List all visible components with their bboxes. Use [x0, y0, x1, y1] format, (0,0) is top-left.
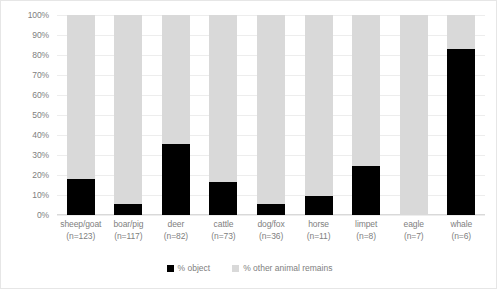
y-axis-tick-label: 10% — [32, 190, 49, 200]
x-axis-category-label: horse(n=11) — [295, 219, 343, 257]
y-axis-tick-label: 100% — [28, 10, 49, 20]
x-axis-category-label: whale(n=6) — [438, 219, 486, 257]
bar-slot — [342, 15, 390, 215]
y-axis-tick-label: 20% — [32, 170, 49, 180]
legend-label: % other animal remains — [243, 263, 332, 273]
category-sample-size: (n=117) — [105, 231, 153, 243]
bar-segment-object[interactable] — [352, 166, 380, 215]
y-axis-tick-label: 60% — [32, 90, 49, 100]
legend-item-object[interactable]: % object — [167, 263, 211, 273]
y-axis-tick-label: 80% — [32, 50, 49, 60]
bar-segment-other-animal-remains[interactable] — [257, 15, 285, 204]
bar-slot — [390, 15, 438, 215]
x-axis-category-label: limpet(n=8) — [342, 219, 390, 257]
bar-segment-object[interactable] — [257, 204, 285, 215]
category-name: deer — [168, 219, 185, 229]
category-name: whale — [450, 219, 472, 229]
x-axis-category-label: eagle(n=7) — [390, 219, 438, 257]
bar-stack-whale[interactable] — [447, 15, 475, 215]
bar-segment-other-animal-remains[interactable] — [352, 15, 380, 166]
bar-segment-object[interactable] — [447, 49, 475, 215]
bar-segment-object[interactable] — [305, 196, 333, 215]
x-axis-category-label: cattle(n=73) — [200, 219, 248, 257]
y-axis-tick-label: 30% — [32, 150, 49, 160]
bar-slot — [152, 15, 200, 215]
bar-slot — [295, 15, 343, 215]
bar-segment-object[interactable] — [162, 144, 190, 215]
category-name: horse — [308, 219, 329, 229]
category-name: sheep/goat — [60, 219, 101, 229]
category-name: limpet — [355, 219, 377, 229]
x-axis: sheep/goat(n=123)boar/pig(n=117)deer(n=8… — [57, 219, 485, 257]
legend-label: % object — [178, 263, 211, 273]
bar-stack-eagle[interactable] — [400, 15, 428, 215]
bar-slot — [200, 15, 248, 215]
category-name: boar/pig — [113, 219, 143, 229]
y-axis-tick-label: 0% — [37, 210, 49, 220]
bar-segment-other-animal-remains[interactable] — [305, 15, 333, 196]
category-sample-size: (n=82) — [152, 231, 200, 243]
category-sample-size: (n=6) — [438, 231, 486, 243]
bar-stack-deer[interactable] — [162, 15, 190, 215]
bar-segment-object[interactable] — [114, 204, 142, 215]
y-axis: 0%10%20%30%40%50%60%70%80%90%100% — [1, 1, 53, 229]
gridline-0 — [57, 215, 485, 216]
legend-swatch-icon — [232, 265, 239, 272]
bar-stack-cattle[interactable] — [209, 15, 237, 215]
bar-stack-dog-fox[interactable] — [257, 15, 285, 215]
bar-segment-object[interactable] — [209, 182, 237, 215]
bar-segment-other-animal-remains[interactable] — [67, 15, 95, 179]
x-axis-category-label: deer(n=82) — [152, 219, 200, 257]
bar-slot — [105, 15, 153, 215]
y-axis-tick-label: 90% — [32, 30, 49, 40]
x-axis-category-label: dog/fox(n=36) — [247, 219, 295, 257]
bar-stack-limpet[interactable] — [352, 15, 380, 215]
bar-stack-horse[interactable] — [305, 15, 333, 215]
category-sample-size: (n=123) — [57, 231, 105, 243]
y-axis-tick-label: 70% — [32, 70, 49, 80]
chart-legend: % object% other animal remains — [1, 263, 498, 273]
legend-item-other-animal-remains[interactable]: % other animal remains — [232, 263, 332, 273]
legend-swatch-icon — [167, 265, 174, 272]
bar-slot — [57, 15, 105, 215]
category-sample-size: (n=7) — [390, 231, 438, 243]
x-axis-category-label: boar/pig(n=117) — [105, 219, 153, 257]
category-sample-size: (n=73) — [200, 231, 248, 243]
bar-segment-object[interactable] — [67, 179, 95, 215]
bar-slot — [247, 15, 295, 215]
bar-segment-other-animal-remains[interactable] — [209, 15, 237, 182]
x-axis-category-label: sheep/goat(n=123) — [57, 219, 105, 257]
category-sample-size: (n=8) — [342, 231, 390, 243]
category-name: dog/fox — [257, 219, 284, 229]
category-name: cattle — [214, 219, 234, 229]
bar-stack-sheep-goat[interactable] — [67, 15, 95, 215]
y-axis-tick-label: 40% — [32, 130, 49, 140]
bar-stack-boar-pig[interactable] — [114, 15, 142, 215]
bar-slot — [438, 15, 486, 215]
bar-segment-other-animal-remains[interactable] — [447, 15, 475, 49]
chart-figure: 0%10%20%30%40%50%60%70%80%90%100% sheep/… — [0, 0, 497, 289]
category-name: eagle — [404, 219, 424, 229]
category-sample-size: (n=36) — [247, 231, 295, 243]
y-axis-tick-label: 50% — [32, 110, 49, 120]
bar-segment-other-animal-remains[interactable] — [400, 15, 428, 215]
bar-segment-other-animal-remains[interactable] — [162, 15, 190, 144]
bar-segment-other-animal-remains[interactable] — [114, 15, 142, 204]
category-sample-size: (n=11) — [295, 231, 343, 243]
bar-series-container — [57, 15, 485, 215]
